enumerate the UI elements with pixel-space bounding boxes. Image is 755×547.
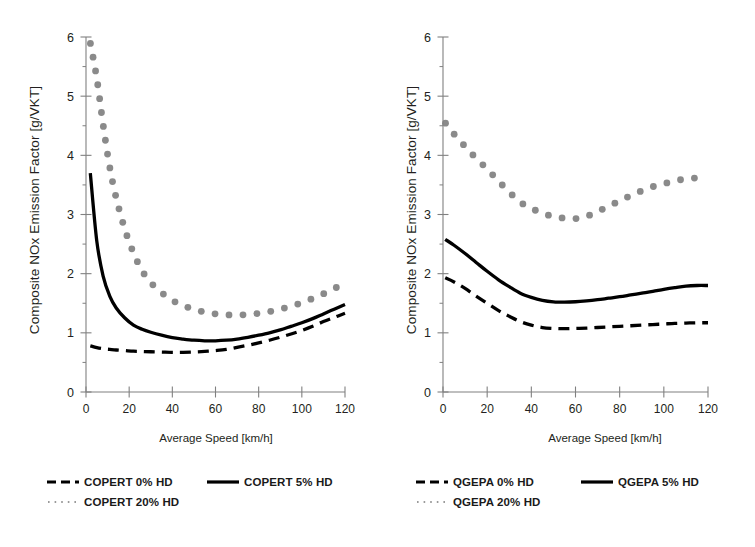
y-tick-label: 1 — [67, 326, 74, 340]
x-tick-label: 80 — [613, 402, 627, 416]
legend-label-copert-20: COPERT 20% HD — [84, 496, 179, 508]
legend-item-qgepa-0: QGEPA 0% HD — [415, 476, 580, 488]
x-tick-label: 80 — [252, 402, 266, 416]
x-tick-label: 120 — [698, 402, 718, 416]
series-1-line — [445, 239, 708, 302]
left-legend: COPERT 0% HD COPERT 5% HD — [46, 472, 376, 512]
legend-item-qgepa-20: QGEPA 20% HD — [415, 496, 540, 508]
x-tick-label: 100 — [654, 402, 674, 416]
series-0-line — [90, 313, 345, 352]
legend-row-2: COPERT 20% HD — [46, 492, 376, 512]
y-tick-label: 5 — [67, 90, 74, 104]
solid-line-swatch-icon — [206, 477, 240, 487]
x-tick-label: 120 — [335, 402, 355, 416]
figure-container: Composite NOx Emission Factor [g/VKT] 01… — [0, 0, 755, 547]
legend-label-qgepa-5: QGEPA 5% HD — [618, 476, 699, 488]
y-tick-label: 4 — [67, 149, 74, 163]
y-tick-label: 3 — [67, 208, 74, 222]
right-legend: QGEPA 0% HD QGEPA 5% HD — [415, 472, 755, 512]
y-tick-label: 0 — [424, 386, 431, 400]
y-tick-label: 2 — [67, 267, 74, 281]
dotted-line-swatch-icon — [46, 497, 80, 507]
legend-label-qgepa-20: QGEPA 20% HD — [453, 496, 540, 508]
x-tick-label: 60 — [569, 402, 583, 416]
right-plot-area: 0123456020406080100120 — [377, 0, 754, 420]
x-tick-label: 20 — [480, 402, 494, 416]
legend-row-2: QGEPA 20% HD — [415, 492, 755, 512]
y-tick-label: 4 — [424, 149, 431, 163]
x-tick-label: 20 — [122, 402, 136, 416]
legend-label-copert-5: COPERT 5% HD — [244, 476, 333, 488]
legend-item-copert-5: COPERT 5% HD — [206, 476, 333, 488]
y-tick-label: 2 — [424, 267, 431, 281]
left-x-axis-label: Average Speed [km/h] — [116, 432, 316, 444]
y-tick-label: 3 — [424, 208, 431, 222]
dashed-line-swatch-icon — [415, 477, 449, 487]
legend-label-qgepa-0: QGEPA 0% HD — [453, 476, 534, 488]
y-tick-label: 6 — [67, 31, 74, 45]
y-tick-label: 5 — [424, 90, 431, 104]
dotted-line-swatch-icon — [415, 497, 449, 507]
x-tick-label: 0 — [83, 402, 90, 416]
left-plot-area: 0123456020406080100120 — [0, 0, 377, 420]
x-tick-label: 100 — [292, 402, 312, 416]
dashed-line-swatch-icon — [46, 477, 80, 487]
y-tick-label: 6 — [424, 31, 431, 45]
x-tick-label: 60 — [209, 402, 223, 416]
left-panel: Composite NOx Emission Factor [g/VKT] 01… — [0, 0, 377, 547]
series-2-markers — [87, 40, 340, 318]
right-x-axis-label: Average Speed [km/h] — [505, 432, 705, 444]
legend-label-copert-0: COPERT 0% HD — [84, 476, 173, 488]
legend-item-copert-0: COPERT 0% HD — [46, 476, 206, 488]
legend-item-qgepa-5: QGEPA 5% HD — [580, 476, 699, 488]
series-2-markers — [442, 120, 698, 222]
x-tick-label: 40 — [166, 402, 180, 416]
y-tick-label: 0 — [67, 386, 74, 400]
y-tick-label: 1 — [424, 326, 431, 340]
x-tick-label: 0 — [440, 402, 447, 416]
legend-row-1: COPERT 0% HD COPERT 5% HD — [46, 472, 376, 492]
legend-item-copert-20: COPERT 20% HD — [46, 496, 179, 508]
solid-line-swatch-icon — [580, 477, 614, 487]
right-panel: Composite NOx Emission Factor [g/VKT] 01… — [377, 0, 754, 547]
x-tick-label: 40 — [525, 402, 539, 416]
legend-row-1: QGEPA 0% HD QGEPA 5% HD — [415, 472, 755, 492]
